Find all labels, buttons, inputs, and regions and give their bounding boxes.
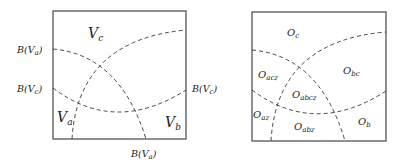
region-obc: Obc: [343, 65, 360, 78]
region-vb: Vb: [165, 114, 181, 132]
region-oc: Oc: [287, 27, 299, 40]
boundary-b-vc: [53, 88, 186, 112]
region-oabz: Oabz: [294, 121, 315, 134]
region-vc: Vc: [88, 25, 103, 43]
region-oabcz: Oabcz: [292, 89, 317, 102]
region-va: Va: [57, 109, 73, 127]
region-oacz: Oacz: [258, 69, 278, 82]
right-panel: Oc Oacz Obc Oabcz Oaz Oabz Ob: [252, 12, 386, 141]
partition-diagram: Vc Va Vb B(Va) B(Vc) B(Vc) B(Va) Oc Oacz…: [0, 0, 404, 166]
boundary-arc-c: [252, 90, 386, 114]
label-b-va-bottom: B(Va): [130, 148, 157, 161]
label-b-va-left: B(Va): [16, 44, 43, 57]
region-ob: Ob: [358, 116, 371, 129]
region-oaz: Oaz: [253, 109, 269, 122]
label-b-vc-right: B(Vc): [191, 83, 217, 96]
left-panel: Vc Va Vb B(Va) B(Vc) B(Vc) B(Va): [16, 11, 217, 161]
label-b-vc-left: B(Vc): [16, 83, 42, 96]
